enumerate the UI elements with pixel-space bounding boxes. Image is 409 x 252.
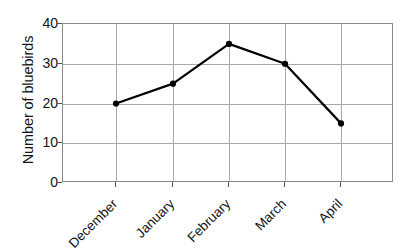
x-axis-tick-label: December [25,196,120,252]
line-chart: Number of bluebirds 010203040 DecemberJa… [0,0,409,252]
x-axis-tick-labels: DecemberJanuaryFebruaryMarchApril [0,0,409,252]
